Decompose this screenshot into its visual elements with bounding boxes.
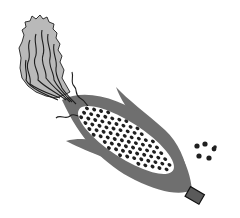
corn-illustration (0, 0, 240, 218)
loose-kernel (196, 153, 201, 158)
loose-kernel (213, 145, 217, 149)
loose-kernel (206, 155, 211, 160)
loose-kernel (202, 141, 207, 146)
loose-kernels (194, 141, 216, 160)
loose-kernel (194, 143, 199, 148)
